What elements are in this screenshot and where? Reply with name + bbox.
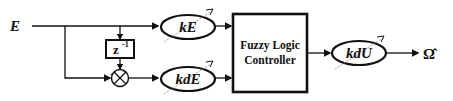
gain-kdu: kdU — [332, 36, 386, 69]
gain-ke: kE — [161, 9, 215, 42]
gain-kde: kdE — [161, 61, 215, 94]
gain-kde-label: kdE — [175, 71, 200, 87]
gain-kdu-label: kdU — [346, 45, 373, 61]
signal-line-branch — [65, 26, 110, 78]
plus-sign: + — [110, 71, 114, 77]
summing-junction: + − — [110, 68, 129, 87]
delay-block: z -1 — [106, 40, 134, 58]
controller-label-line1: Fuzzy Logic — [240, 39, 300, 52]
controller-label-line2: Controller — [244, 54, 296, 66]
input-label: E — [9, 18, 20, 34]
delay-exponent: -1 — [122, 40, 129, 49]
output-label: Ω̂ — [423, 46, 438, 62]
fuzzy-logic-controller-block: Fuzzy Logic Controller — [233, 14, 307, 92]
block-diagram: E z -1 + − kE kdE Fuzzy Logic Contr — [0, 0, 453, 101]
gain-ke-label: kE — [179, 19, 197, 35]
minus-sign: − — [122, 68, 126, 74]
delay-label: z — [113, 42, 119, 57]
